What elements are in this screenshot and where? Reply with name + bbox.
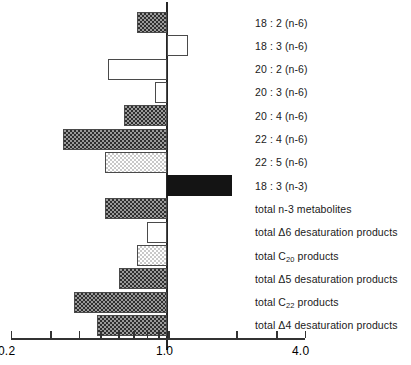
bar-label: 22 : 4 (n-6) <box>255 133 308 145</box>
bar-row <box>0 245 411 266</box>
axis-tick <box>100 331 102 338</box>
bar-checker <box>124 105 167 126</box>
bar-row <box>0 175 411 196</box>
bar-label: 20 : 2 (n-6) <box>255 63 308 75</box>
plot-area: 18 : 2 (n-6)18 : 3 (n-6)20 : 2 (n-6)20 :… <box>0 0 411 338</box>
axis-tick-label: 0.2 <box>0 344 15 358</box>
bar-checker <box>97 315 167 336</box>
bar-checker <box>74 292 167 313</box>
axis-tick <box>236 331 238 338</box>
bar-solid <box>167 175 232 196</box>
bar-open <box>147 222 167 243</box>
bar-dots <box>137 245 167 266</box>
bar-label: 20 : 4 (n-6) <box>255 110 308 122</box>
axis-tick-label: 4.0 <box>292 344 309 358</box>
bar-row <box>0 82 411 103</box>
axis-tick <box>133 331 135 338</box>
axis-tick <box>118 331 120 338</box>
bar-row <box>0 12 411 33</box>
bar-chart: 18 : 2 (n-6)18 : 3 (n-6)20 : 2 (n-6)20 :… <box>0 0 411 365</box>
bar-open <box>108 59 167 80</box>
bar-dots <box>105 152 167 173</box>
bar-row <box>0 59 411 80</box>
bar-checker <box>63 129 167 150</box>
axis-tick <box>147 331 149 338</box>
axis-tick <box>50 331 52 338</box>
bar-row <box>0 105 411 126</box>
bar-label: 18 : 2 (n-6) <box>255 17 308 29</box>
axis-tick <box>158 331 160 338</box>
bar-label: total C20 products <box>255 250 339 266</box>
bar-row <box>0 152 411 173</box>
bar-checker <box>137 12 167 33</box>
bar-checker <box>105 198 167 219</box>
axis-tick <box>276 331 278 338</box>
x-axis-line <box>11 338 305 340</box>
bar-label: total Δ5 desaturation products <box>255 273 398 285</box>
bar-label: 18 : 3 (n-3) <box>255 180 308 192</box>
bar-label: 22 : 5 (n-6) <box>255 156 308 168</box>
bar-open <box>167 35 188 56</box>
axis-tick-label: 1.0 <box>156 344 173 358</box>
bar-label: total Δ6 desaturation products <box>255 226 398 238</box>
bar-label: total n-3 metabolites <box>255 203 352 215</box>
bar-open <box>155 82 167 103</box>
axis-tick <box>305 331 307 338</box>
axis-tick <box>11 331 13 338</box>
bar-label: total Δ4 desaturation products <box>255 319 398 331</box>
bar-row <box>0 129 411 150</box>
bar-row <box>0 292 411 313</box>
bar-label: 20 : 3 (n-6) <box>255 86 308 98</box>
bar-checker <box>119 268 167 289</box>
axis-tick <box>168 331 170 338</box>
axis-tick <box>79 331 81 338</box>
bar-label: 18 : 3 (n-6) <box>255 40 308 52</box>
bar-row <box>0 35 411 56</box>
bar-label: total C22 products <box>255 296 339 312</box>
